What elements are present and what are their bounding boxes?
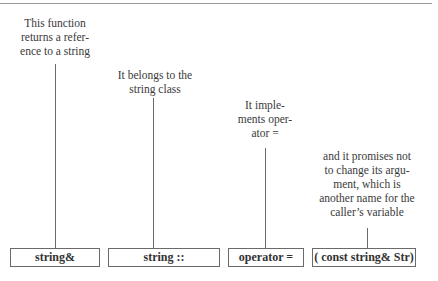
annotation-line: returns a refer-: [14, 30, 96, 44]
connector-line-1: [55, 64, 56, 248]
annotation-const-argument: and it promises not to change its argu- …: [308, 149, 426, 219]
box-label: ( const string& Str): [314, 250, 414, 265]
box-class-scope: string ::: [108, 248, 220, 267]
box-label: string ::: [144, 250, 185, 265]
box-return-type: string&: [10, 248, 100, 267]
annotation-line: ator =: [226, 126, 304, 140]
annotation-line: another name for the: [308, 191, 426, 205]
connector-line-3: [265, 148, 266, 248]
top-rule-divider: [0, 3, 432, 4]
annotation-line: This function: [14, 16, 96, 30]
annotation-line: It imple-: [226, 98, 304, 112]
annotation-line: ence to a string: [14, 44, 96, 58]
box-label: operator =: [239, 250, 293, 265]
annotation-line: string class: [108, 82, 202, 96]
annotation-line: ments oper-: [226, 112, 304, 126]
annotation-line: to change its argu-: [308, 163, 426, 177]
annotation-line: It belongs to the: [108, 68, 202, 82]
annotation-line: caller’s variable: [308, 205, 426, 219]
connector-line-4: [367, 228, 368, 248]
annotation-implements-operator: It imple- ments oper- ator =: [226, 98, 304, 140]
annotation-line: and it promises not: [308, 149, 426, 163]
box-operator: operator =: [228, 248, 304, 267]
annotation-return-reference: This function returns a refer- ence to a…: [14, 16, 96, 58]
box-parameter: ( const string& Str): [312, 248, 416, 267]
annotation-line: ment, which is: [308, 177, 426, 191]
connector-line-2: [153, 98, 154, 248]
box-label: string&: [35, 250, 75, 265]
annotation-string-class: It belongs to the string class: [108, 68, 202, 96]
